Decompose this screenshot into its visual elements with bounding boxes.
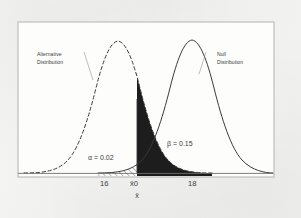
figure-page: Alternative Distribution Null Distributi… xyxy=(0,0,301,218)
x-tick-label-18: 18 xyxy=(188,179,196,188)
beta-annotation-label: β = 0.15 xyxy=(167,140,193,148)
null-distribution-label-line2: Distribution xyxy=(217,59,243,65)
statistics-figure: Alternative Distribution Null Distributi… xyxy=(0,0,301,218)
x-axis-title: x̄ xyxy=(135,191,139,200)
x-tick-label-critical-value: x̄0 xyxy=(130,179,138,188)
alternative-distribution-label-line2: Distribution xyxy=(37,59,63,65)
null-distribution-label-line1: Null xyxy=(217,51,226,57)
x-tick-label-16: 16 xyxy=(100,179,108,188)
alternative-distribution-label-line1: Alternative xyxy=(37,51,62,57)
alpha-annotation-label: α = 0.02 xyxy=(88,154,114,161)
